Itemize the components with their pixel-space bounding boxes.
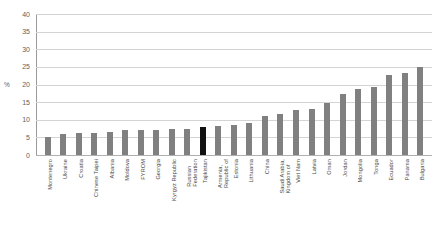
- x-label-slot: China: [257, 157, 273, 235]
- y-axis-tick-label: 5: [0, 134, 30, 141]
- bar-slot: [195, 14, 211, 155]
- x-label-slot: Moldova: [118, 157, 134, 235]
- x-axis-category-label: FYROM: [141, 159, 147, 180]
- bar: [184, 129, 190, 155]
- x-axis-category-label: Ukraine: [63, 159, 69, 179]
- bar-slot: [366, 14, 382, 155]
- y-axis-tick-label: 15: [0, 99, 30, 106]
- bar-slot: [164, 14, 180, 155]
- bar: [60, 134, 66, 155]
- bar: [215, 126, 221, 155]
- bar-slot: [149, 14, 165, 155]
- x-axis-category-label: China: [265, 159, 271, 174]
- x-axis-category-label: Chinese Taipei: [94, 159, 100, 197]
- x-axis-category-label: Moldova: [125, 159, 131, 181]
- bar-slot: [211, 14, 227, 155]
- x-label-slot: Montenegro: [40, 157, 56, 235]
- bar: [231, 125, 237, 155]
- x-label-slot: Panama: [397, 157, 413, 235]
- x-axis-category-label: Latvia: [312, 159, 318, 175]
- x-label-slot: Ecuador: [381, 157, 397, 235]
- x-axis-category-label: Tajikistan: [203, 159, 209, 183]
- bar: [153, 130, 159, 155]
- bar: [91, 133, 97, 155]
- bar: [138, 130, 144, 155]
- y-axis-tick-label: 10: [0, 116, 30, 123]
- x-axis-category-label: Jordan: [343, 159, 349, 177]
- x-axis-category-label: Bulgaria: [420, 159, 426, 180]
- bar-chart: 0510152025303540 % MontenegroUkraineCroa…: [0, 0, 435, 235]
- bar-slot: [397, 14, 413, 155]
- x-label-slot: Mongolia: [350, 157, 366, 235]
- bar: [277, 114, 283, 155]
- x-label-slot: Armenia,Republic of: [211, 157, 227, 235]
- x-label-slot: Viet Nam: [288, 157, 304, 235]
- x-label-slot: Bulgaria: [412, 157, 428, 235]
- bar-slot: [102, 14, 118, 155]
- bar: [386, 75, 392, 155]
- bar: [293, 110, 299, 155]
- bar-slot: [257, 14, 273, 155]
- bar-slot: [56, 14, 72, 155]
- x-label-slot: Ukraine: [56, 157, 72, 235]
- bar: [45, 137, 51, 155]
- x-axis-category-label: Montenegro: [48, 159, 54, 190]
- gridline: [36, 155, 432, 156]
- x-label-slot: Chinese Taipei: [87, 157, 103, 235]
- bar-series: [36, 14, 432, 155]
- x-label-slot: Tajikistan: [195, 157, 211, 235]
- bar-slot: [118, 14, 134, 155]
- y-axis-tick-label: 0: [0, 152, 30, 159]
- bar: [122, 130, 128, 155]
- bar-slot: [226, 14, 242, 155]
- bar: [76, 133, 82, 155]
- bar-slot: [40, 14, 56, 155]
- bar-slot: [133, 14, 149, 155]
- x-label-slot: Oman: [319, 157, 335, 235]
- bar: [340, 94, 346, 155]
- x-label-slot: Saudi Arabia,Kingdom of: [273, 157, 289, 235]
- x-label-slot: Georgia: [149, 157, 165, 235]
- x-axis-category-label: Oman: [327, 159, 333, 175]
- x-axis-category-label: Viet Nam: [296, 159, 302, 183]
- bar: [107, 132, 113, 155]
- bar-slot: [87, 14, 103, 155]
- x-label-slot: Kyrgyz Republic: [164, 157, 180, 235]
- bar-slot: [335, 14, 351, 155]
- x-axis-category-label: Estonia: [234, 159, 240, 178]
- bar-slot: [242, 14, 258, 155]
- x-label-slot: Latvia: [304, 157, 320, 235]
- bar: [169, 129, 175, 155]
- y-axis-tick-labels: 0510152025303540: [0, 0, 34, 235]
- x-axis-category-label: Croatia: [79, 159, 85, 178]
- x-label-slot: Jordan: [335, 157, 351, 235]
- bar: [246, 123, 252, 155]
- x-axis-category-label: Georgia: [156, 159, 162, 180]
- y-axis-unit-label: %: [4, 82, 10, 89]
- bar-slot: [71, 14, 87, 155]
- x-axis-category-label: Mongolia: [358, 159, 364, 183]
- x-label-slot: Tonga: [366, 157, 382, 235]
- y-axis-tick-label: 35: [0, 28, 30, 35]
- bar-slot: [350, 14, 366, 155]
- x-label-slot: Estonia: [226, 157, 242, 235]
- x-axis-category-label: Lithuania: [249, 159, 255, 183]
- bar-slot: [304, 14, 320, 155]
- bar-slot: [273, 14, 289, 155]
- bar-slot: [381, 14, 397, 155]
- x-axis-category-labels: MontenegroUkraineCroatiaChinese TaipeiAl…: [36, 157, 432, 235]
- y-axis-tick-label: 25: [0, 63, 30, 70]
- x-label-slot: FYROM: [133, 157, 149, 235]
- x-axis-category-label: Panama: [405, 159, 411, 180]
- x-label-slot: Albania: [102, 157, 118, 235]
- bar-slot: [412, 14, 428, 155]
- plot-area: [36, 14, 432, 155]
- bar: [309, 109, 315, 155]
- y-axis-tick-label: 30: [0, 46, 30, 53]
- bar: [402, 73, 408, 155]
- x-axis-category-label: Albania: [110, 159, 116, 178]
- x-label-slot: Lithuania: [242, 157, 258, 235]
- bar: [355, 89, 361, 155]
- y-axis-tick-label: 40: [0, 11, 30, 18]
- x-axis-category-label: Tonga: [374, 159, 380, 175]
